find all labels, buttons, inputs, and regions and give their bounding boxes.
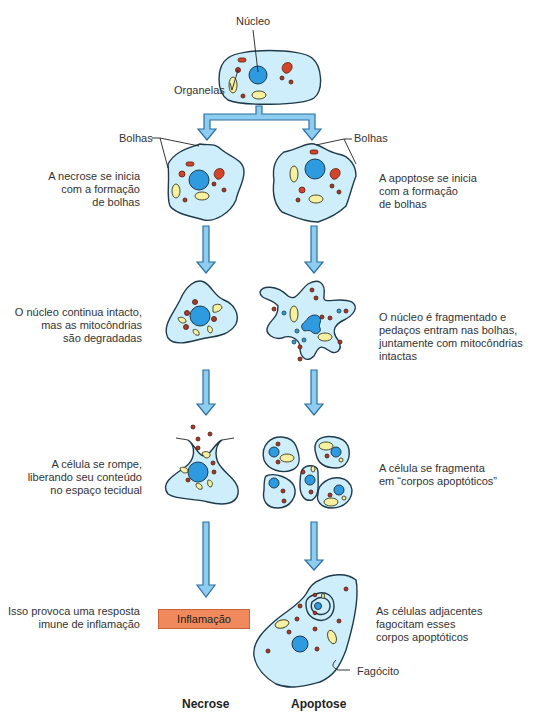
necrosis-step-2-text: O núcleo continua intacto, mas as mitocô…	[0, 306, 142, 345]
apoptosis-step-1-text: A apoptose se inicia com a formação de b…	[379, 172, 529, 211]
apoptosis-arrow-2	[305, 370, 323, 415]
necrosis-column-title: Necrose	[182, 697, 229, 711]
necrosis-step-4-text: Isso provoca uma resposta imune de infla…	[0, 605, 140, 631]
organelles-label: Organelas	[174, 84, 225, 96]
nucleus-icon	[188, 462, 208, 482]
apoptotic-body-4	[264, 475, 296, 508]
necrosis-arrow-2	[197, 370, 215, 415]
apoptosis-arrow-3	[305, 522, 323, 570]
branch-arrow	[198, 106, 321, 140]
apoptotic-body-2	[315, 437, 350, 468]
apoptosis-step-3-text: A célula se fragmenta em “corpos apoptót…	[379, 462, 529, 488]
apoptosis-step-4-text: As células adjacentes fagocitam esses co…	[376, 605, 526, 644]
necrosis-bolhas-label: Bolhas	[119, 132, 153, 144]
apoptosis-step-2-text: O núcleo é fragmentado e pedaços entram …	[379, 311, 534, 363]
necrosis-step-3-text: A célula se rompe, liberando seu conteúd…	[0, 458, 142, 497]
nucleus-icon	[190, 306, 210, 326]
apoptosis-cell-2	[260, 281, 355, 361]
apoptosis-cell-1	[273, 144, 356, 222]
apoptosis-bolhas-label: Bolhas	[354, 132, 388, 144]
necrosis-arrow-1	[197, 226, 215, 273]
necrosis-cell-1	[168, 144, 244, 220]
phagocyte-label: Fagócito	[357, 665, 399, 677]
nucleus-icon	[292, 636, 308, 652]
apoptotic-body-5	[318, 478, 352, 508]
apoptosis-arrow-1	[305, 226, 323, 273]
apoptotic-body-1	[263, 437, 299, 471]
nucleus-label: Núcleo	[236, 15, 270, 27]
inflammation-box: Inflamação	[158, 609, 250, 629]
apoptotic-body-3	[300, 466, 318, 501]
apoptosis-column-title: Apoptose	[291, 697, 346, 711]
necrosis-step-1-text: A necrose se inicia com a formação de bo…	[0, 170, 140, 209]
initial-cell	[219, 51, 321, 105]
necrosis-cell-2	[166, 281, 237, 343]
necrosis-cell-3	[165, 425, 238, 504]
nucleus-icon	[305, 159, 325, 179]
nucleus-icon	[189, 170, 209, 190]
apoptotic-bodies	[263, 437, 352, 508]
necrosis-arrow-3	[197, 522, 215, 597]
